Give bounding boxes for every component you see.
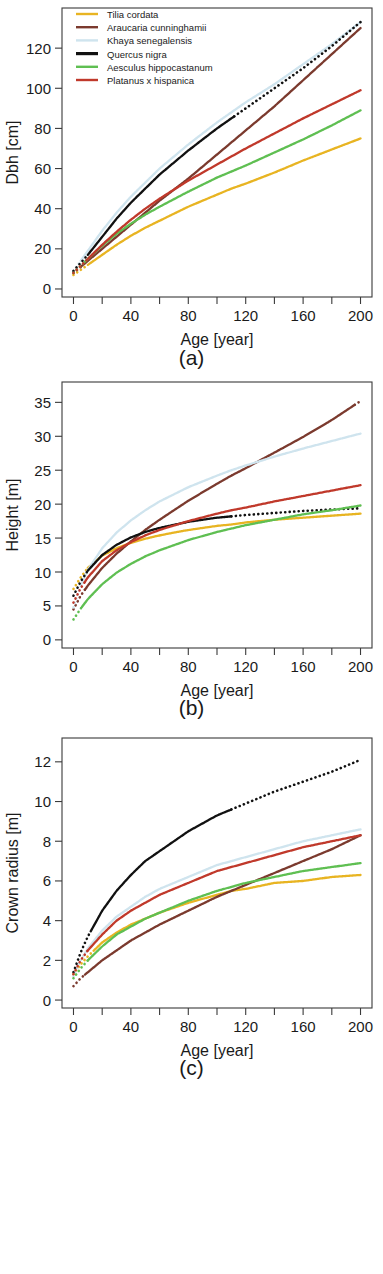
y-tick-label: 35 [34,394,51,411]
x-tick-label: 40 [123,1018,140,1035]
x-tick-label: 160 [291,1018,316,1035]
curve-group [73,835,360,986]
y-tick-label: 4 [43,912,51,929]
y-tick-label: 15 [34,530,51,547]
curve-dotted-start [73,975,84,987]
curve-group [73,110,360,273]
y-tick-label: 60 [34,160,51,177]
legend-label: Araucaria cunninghamii [107,22,206,33]
x-tick-label: 200 [348,1018,373,1035]
x-tick-label: 0 [69,307,77,324]
y-tick-label: 20 [34,240,51,257]
y-tick-label: 10 [34,564,51,581]
tree-growth-figure: 04080120160200020406080100120Age [year]D… [0,0,383,1274]
y-tick-label: 0 [43,280,51,297]
curve-solid [88,516,232,570]
panel-a-caption: (a) [0,346,383,370]
legend-label: Tilia cordata [107,9,159,20]
y-tick-label: 120 [26,40,51,57]
y-tick-label: 20 [34,496,51,513]
y-tick-label: 5 [43,597,51,614]
x-tick-label: 80 [180,307,197,324]
panel-a-plot: 04080120160200020406080100120Age [year]D… [0,0,383,350]
legend-label: Aesculus hippocastanum [107,62,213,73]
legend-label: Quercus nigra [107,49,167,60]
curve-solid [85,405,355,590]
x-tick-label: 0 [69,1018,77,1035]
x-tick-label: 0 [69,658,77,675]
curve-solid [81,434,361,586]
curve-solid [85,829,361,953]
x-tick-label: 80 [180,658,197,675]
x-tick-label: 120 [233,307,258,324]
legend-label: Platanus x hispanica [107,75,195,86]
curve-group [73,401,360,609]
curve-group [73,506,360,620]
panel-c-caption: (c) [0,1056,383,1080]
curve-dotted-start [73,607,82,620]
y-tick-label: 30 [34,428,51,445]
curve-group [73,508,360,596]
y-axis-title: Height [m] [4,479,21,552]
x-tick-label: 160 [291,658,316,675]
y-tick-label: 8 [43,833,51,850]
x-tick-label: 200 [348,658,373,675]
y-tick-label: 100 [26,80,51,97]
curve-solid [85,835,361,974]
y-axis-title: Crown radius [m] [4,813,21,934]
y-tick-label: 40 [34,200,51,217]
x-tick-label: 120 [233,1018,258,1035]
legend: Tilia cordataAraucaria cunninghamiiKhaya… [76,9,213,86]
legend-label: Khaya senegalensis [107,35,192,46]
panel-c: 04080120160200024681012Age [year]Crown r… [0,720,383,1080]
y-tick-label: 0 [43,631,51,648]
panel-b-plot: 0408012016020005101520253035Age [year]He… [0,370,383,700]
x-tick-label: 40 [123,307,140,324]
curve-group [73,434,360,608]
panel-b: 0408012016020005101520253035Age [year]He… [0,370,383,720]
curve-solid [82,506,360,607]
curve-dotted-end [231,760,360,810]
x-tick-label: 80 [180,1018,197,1035]
y-tick-label: 0 [43,992,51,1009]
curve-dotted-end [355,401,361,405]
x-tick-label: 120 [233,658,258,675]
panel-a: 04080120160200020406080100120Age [year]D… [0,0,383,370]
y-tick-label: 80 [34,120,51,137]
curve-dotted-start [73,953,84,976]
plot-frame [62,738,372,1008]
x-tick-label: 160 [291,307,316,324]
curve-solid [88,138,361,264]
y-tick-label: 10 [34,793,51,810]
curve-solid [88,116,234,254]
y-tick-label: 25 [34,462,51,479]
y-tick-label: 2 [43,952,51,969]
x-tick-label: 200 [348,307,373,324]
x-tick-label: 40 [123,658,140,675]
y-tick-label: 6 [43,872,51,889]
curve-group [73,829,360,976]
curve-group [73,138,360,274]
curve-dotted-start [73,950,87,974]
y-axis-title: Dbh [cm] [4,120,21,184]
panel-c-plot: 04080120160200024681012Age [year]Crown r… [0,720,383,1060]
panel-b-caption: (b) [0,696,383,720]
y-tick-label: 12 [34,753,51,770]
